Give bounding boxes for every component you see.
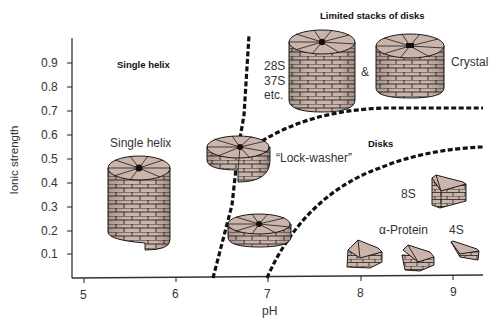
y-tick: 0.5	[41, 153, 58, 165]
y-tick: 0.1	[41, 248, 58, 260]
lock-washer-label: “Lock-washer”	[276, 152, 352, 164]
y-tick: 0.6	[41, 129, 58, 141]
y-tick: 0.4	[41, 177, 58, 189]
y-axis-title: Ionic strength	[8, 125, 20, 194]
region-label-limited-stacks: Limited stacks of disks	[320, 11, 425, 21]
stack-28s-label: 28S	[264, 60, 285, 72]
stack-37s-label: 37S	[264, 75, 285, 87]
y-tick: 0.7	[41, 105, 58, 117]
crystal-label: Crystal	[451, 56, 488, 68]
x-tick: 6	[172, 288, 179, 300]
x-tick: 7	[264, 288, 271, 300]
stack-etc-label: etc.	[264, 89, 283, 101]
region-label-single-helix: Single helix	[117, 60, 170, 70]
s8-wedge-structure	[432, 175, 466, 208]
x-axis-line	[72, 275, 483, 278]
single-helix-structure	[108, 156, 170, 250]
x-tick: 5	[80, 289, 87, 301]
x-tick: 9	[450, 286, 457, 298]
phase-diagram	[0, 0, 503, 335]
limited-stack-structure	[289, 30, 355, 112]
x-axis-title: pH	[262, 305, 277, 317]
y-tick: 0.8	[41, 81, 58, 93]
y-tick: 0.3	[41, 201, 58, 213]
disk-structure	[228, 214, 291, 247]
single-helix-label: Single helix	[110, 137, 171, 149]
region-label-disks: Disks	[368, 139, 393, 149]
lock-washer-structure	[207, 136, 270, 182]
alpha-protein-label: α-Protein	[379, 224, 428, 236]
boundary-stack-disk	[262, 108, 483, 141]
s4-wedge-structure	[451, 241, 479, 260]
s4-label: 4S	[449, 224, 464, 236]
y-tick: 0.9	[41, 57, 58, 69]
crystal-structure	[376, 34, 444, 98]
x-tick: 8	[357, 287, 364, 299]
alpha-protein-wedge-2	[402, 245, 434, 271]
ampersand-label: &	[361, 66, 369, 78]
y-tick: 0.2	[41, 225, 58, 237]
alpha-protein-wedge-1	[347, 240, 382, 268]
s8-label: 8S	[401, 188, 416, 200]
